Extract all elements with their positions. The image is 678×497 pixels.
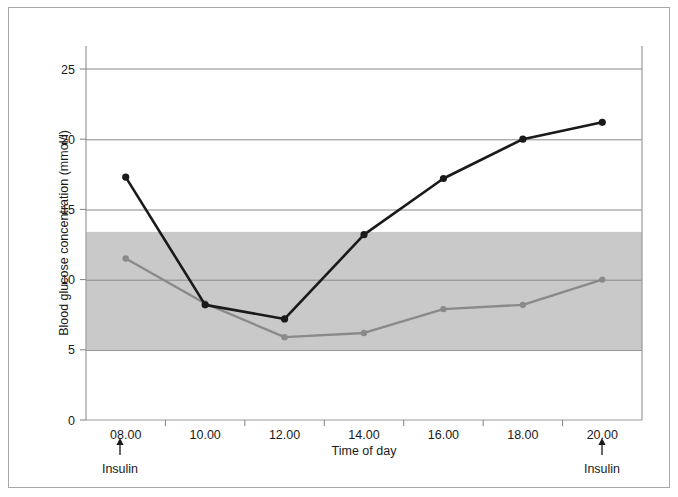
data-point-treated-12.00	[281, 334, 287, 340]
data-point-treated-08.00	[123, 255, 129, 261]
x-tick-label-16.00: 16.00	[428, 428, 459, 442]
y-tick-label-0: 0	[68, 414, 75, 428]
x-axis-title: Time of day	[332, 444, 398, 458]
x-axis-tick-labels: 08.0010.0012.0014.0016.0018.0020.00	[110, 428, 618, 442]
x-tick-label-10.00: 10.00	[190, 428, 221, 442]
data-point-untreated-18.00	[519, 136, 526, 143]
x-axis-ticks	[165, 420, 562, 426]
y-tick-label-25: 25	[61, 63, 75, 77]
insulin-annotation-left: Insulin	[102, 438, 138, 476]
x-tick-label-14.00: 14.00	[348, 428, 379, 442]
x-tick-label-18.00: 18.00	[507, 428, 538, 442]
insulin-label-left: Insulin	[102, 462, 138, 476]
data-point-treated-16.00	[440, 306, 446, 312]
y-tick-label-5: 5	[68, 343, 75, 357]
y-axis-ticks	[80, 69, 86, 420]
data-point-treated-18.00	[520, 302, 526, 308]
data-point-untreated-20.00	[599, 119, 606, 126]
insulin-label-right: Insulin	[584, 462, 620, 476]
data-point-untreated-16.00	[440, 175, 447, 182]
x-tick-label-12.00: 12.00	[269, 428, 300, 442]
data-point-untreated-08.00	[122, 174, 129, 181]
blood-glucose-line-chart: 0510152025 08.0010.0012.0014.0016.0018.0…	[0, 0, 678, 497]
x-tick-label-08.00: 08.00	[110, 428, 141, 442]
data-point-treated-20.00	[599, 276, 605, 282]
data-point-untreated-10.00	[202, 301, 209, 308]
figure-container: 0510152025 08.0010.0012.0014.0016.0018.0…	[0, 0, 678, 497]
insulin-annotation-right: Insulin	[584, 438, 620, 476]
data-point-untreated-14.00	[360, 231, 367, 238]
data-point-untreated-12.00	[281, 315, 288, 322]
y-axis-title: Blood glucose concentration (mmol/l)	[57, 130, 71, 336]
data-point-treated-14.00	[361, 330, 367, 336]
